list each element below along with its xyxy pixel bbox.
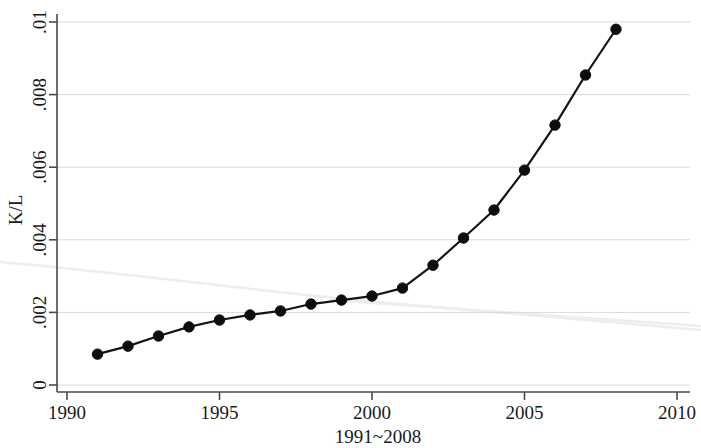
data-point	[92, 349, 102, 359]
x-tick-label-2010: 2010	[658, 402, 696, 423]
y-tick-label-008: .008	[29, 78, 50, 111]
data-point	[306, 299, 316, 309]
x-tick-label-1990: 1990	[48, 402, 86, 423]
y-tick-label-002: .002	[29, 296, 50, 329]
series-line-kl	[98, 29, 617, 354]
background-artifact-group	[0, 262, 701, 330]
data-point	[458, 233, 468, 243]
data-point	[214, 315, 224, 325]
data-point	[245, 310, 255, 320]
x-tick-label-2000: 2000	[353, 402, 391, 423]
line-chart: 0 .002 .004 .006 .008 .01 K/L 1990 1995 …	[0, 0, 701, 448]
chart-page: 0 .002 .004 .006 .008 .01 K/L 1990 1995 …	[0, 0, 701, 448]
data-point	[336, 295, 346, 305]
y-tick-label-01: .01	[29, 10, 50, 34]
data-point	[397, 283, 407, 293]
data-point	[123, 341, 133, 351]
data-point	[519, 165, 529, 175]
x-axis-title: 1991~2008	[335, 426, 421, 447]
scan-ghost-curve-lower	[330, 300, 701, 326]
series-kl	[92, 24, 621, 359]
x-tick-label-2005: 2005	[506, 402, 544, 423]
data-point	[153, 331, 163, 341]
data-point	[550, 120, 560, 130]
data-point	[428, 260, 438, 270]
data-point	[580, 70, 590, 80]
series-markers-kl	[92, 24, 621, 359]
data-point	[611, 24, 621, 34]
data-point	[275, 306, 285, 316]
data-point	[184, 322, 194, 332]
y-tick-label-0: 0	[29, 380, 50, 390]
data-point	[367, 291, 377, 301]
data-point	[489, 205, 499, 215]
y-axis: 0 .002 .004 .006 .008 .01 K/L	[5, 10, 57, 392]
y-tick-label-006: .006	[29, 151, 50, 184]
y-axis-title: K/L	[5, 195, 26, 226]
y-tick-label-004: .004	[29, 223, 50, 257]
x-tick-label-1995: 1995	[201, 402, 239, 423]
gridlines	[57, 22, 690, 385]
x-axis: 1990 1995 2000 2005 2010 1991~2008	[48, 392, 696, 447]
